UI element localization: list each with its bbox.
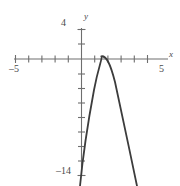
parabola-curve (80, 56, 137, 186)
plot-canvas (0, 0, 180, 186)
y-axis-name-label: y (84, 12, 88, 21)
y-axis-min-tick-label: –14 (56, 166, 71, 176)
parabola-graph-figure: –5 5 4 –14 x y (0, 0, 180, 186)
x-axis-max-tick-label: 5 (159, 64, 164, 74)
x-axis-min-tick-label: –5 (9, 64, 19, 74)
x-axis-name-label: x (169, 50, 173, 59)
y-axis-max-tick-label: 4 (61, 18, 66, 28)
